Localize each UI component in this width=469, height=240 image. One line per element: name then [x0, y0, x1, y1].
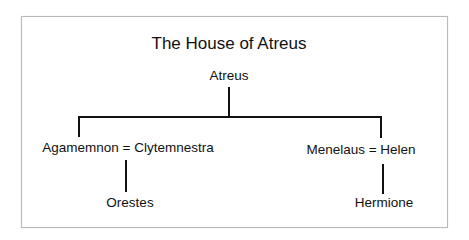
node-menelaus-helen: Menelaus = Helen: [306, 142, 415, 158]
diagram-title: The House of Atreus: [152, 34, 307, 54]
connector-right-child: [382, 164, 384, 194]
connector-left-child: [125, 160, 127, 192]
connector-right-drop: [380, 116, 382, 138]
node-orestes: Orestes: [106, 195, 153, 211]
connector-sibling-bar: [78, 116, 382, 118]
node-hermione: Hermione: [355, 195, 414, 211]
connector-root-down: [228, 87, 230, 117]
node-agamemnon-clytemnestra: Agamemnon = Clytemnestra: [42, 140, 213, 156]
node-atreus: Atreus: [209, 68, 248, 84]
connector-left-drop: [78, 116, 80, 137]
